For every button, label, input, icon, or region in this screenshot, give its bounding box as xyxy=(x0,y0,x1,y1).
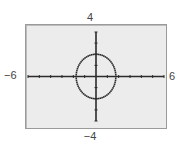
graph-plot xyxy=(26,25,166,128)
ymax-label: 4 xyxy=(87,11,93,23)
axes xyxy=(28,32,164,121)
xmin-label: −6 xyxy=(4,69,17,81)
xmax-label: 6 xyxy=(169,70,175,82)
ymin-label: −4 xyxy=(84,130,97,142)
calculator-graph-screen xyxy=(25,24,167,129)
